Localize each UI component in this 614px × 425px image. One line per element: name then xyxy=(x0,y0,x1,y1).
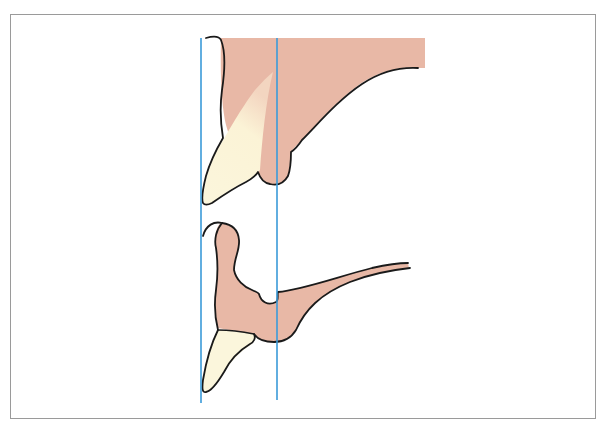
upper-jaw xyxy=(202,37,425,205)
lower-jaw xyxy=(202,223,410,393)
dental-diagram xyxy=(0,0,614,425)
lower-canine-crown xyxy=(202,330,255,392)
lower-gingiva xyxy=(215,223,409,342)
